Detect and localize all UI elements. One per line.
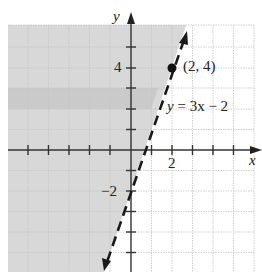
equation-rest: = 3x − 2 — [174, 98, 228, 114]
y-tick-label-neg2: −2 — [101, 184, 117, 199]
equation-y: y — [167, 98, 174, 114]
equation-label: y = 3x − 2 — [167, 99, 228, 114]
y-tick-label-4: 4 — [114, 60, 122, 75]
x-axis-label: x — [249, 153, 256, 168]
point-marker — [168, 64, 177, 73]
graph-canvas — [0, 0, 262, 272]
y-axis-label: y — [113, 9, 120, 24]
x-tick-label-2: 2 — [168, 156, 176, 171]
shaded-region — [8, 25, 186, 272]
point-label: (2, 4) — [183, 59, 216, 74]
